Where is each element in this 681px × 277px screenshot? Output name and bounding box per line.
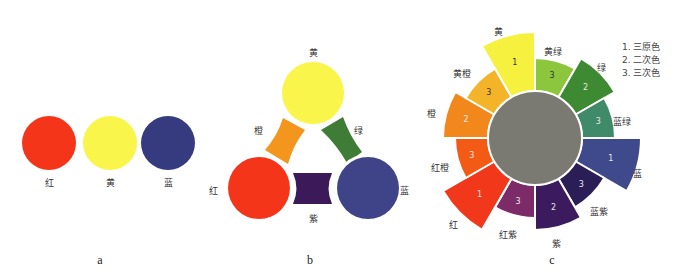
red-orange-label: 红橙: [431, 161, 449, 174]
yellow-orange-order-number: 3: [486, 88, 491, 97]
panel-c-color-wheel: 132313231323: [443, 32, 641, 230]
orange-order-number: 2: [463, 115, 468, 124]
legend-secondary: 2. 二次色: [622, 54, 660, 67]
blue-circle: [337, 157, 399, 219]
wheel-legend: 1. 三原色 2. 二次色 3. 三次色: [622, 41, 660, 80]
yellow-circle: [282, 62, 344, 124]
yellow-label: 黄: [309, 46, 318, 59]
orange-label: 橙: [254, 124, 263, 137]
red-violet-order-number: 3: [516, 197, 521, 206]
color-theory-figure: 132313231323 红黄蓝橙绿紫黄红蓝黄黄绿绿蓝绿蓝蓝紫紫红紫红红橙橙黄橙…: [0, 0, 681, 277]
red-order-number: 1: [477, 190, 482, 199]
yellow-order-number: 1: [512, 58, 517, 67]
caption-b: b: [307, 253, 313, 268]
violet-mix-shape: [293, 173, 332, 204]
yellow-label: 黄: [494, 25, 503, 38]
orange-label: 橙: [427, 107, 436, 120]
yellow-circle: [83, 116, 137, 170]
red-orange-order-number: 3: [469, 151, 474, 160]
violet-order-number: 2: [551, 203, 556, 212]
legend-tertiary: 3. 三次色: [622, 67, 660, 80]
green-label: 绿: [597, 61, 606, 74]
red-label: 红: [449, 218, 458, 231]
panel-a-primary-colors: [22, 116, 195, 170]
blue-violet-label: 蓝紫: [590, 205, 608, 218]
blue-green-label: 蓝绿: [613, 115, 631, 128]
blue-circle: [141, 116, 195, 170]
panel-b-color-triangle: [225, 59, 402, 222]
blue-label: 蓝: [400, 184, 409, 197]
figure-canvas: 132313231323: [0, 0, 681, 277]
red-circle: [228, 157, 290, 219]
blue-green-order-number: 3: [596, 117, 601, 126]
blue-order-number: 1: [608, 154, 613, 163]
caption-c: c: [549, 253, 554, 268]
green-label: 绿: [354, 124, 363, 137]
yellow-green-order-number: 3: [549, 71, 554, 80]
yellow-label: 黄: [106, 176, 115, 189]
red-label: 红: [209, 184, 218, 197]
legend-primary: 1. 三原色: [622, 41, 660, 54]
yellow-green-label: 黄绿: [544, 45, 562, 58]
red-circle: [22, 116, 76, 170]
wheel-center-gray: [488, 91, 582, 185]
caption-a: a: [97, 253, 102, 268]
blue-label: 蓝: [633, 167, 642, 180]
violet-label: 紫: [309, 212, 318, 225]
blue-violet-order-number: 3: [579, 180, 584, 189]
red-label: 红: [45, 176, 54, 189]
yellow-orange-label: 黄橙: [453, 67, 471, 80]
violet-label: 紫: [552, 237, 561, 250]
blue-label: 蓝: [164, 176, 173, 189]
red-violet-label: 红紫: [499, 228, 517, 241]
green-order-number: 2: [583, 83, 588, 92]
